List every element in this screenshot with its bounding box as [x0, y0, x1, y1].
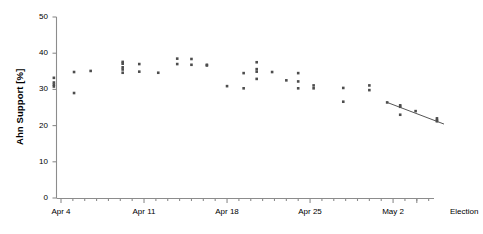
data-point [190, 63, 193, 66]
data-point [271, 71, 274, 74]
data-point [121, 62, 124, 65]
data-point [157, 71, 160, 74]
data-point [386, 101, 389, 104]
data-point [255, 78, 258, 81]
x-tick-label: Apr 11 [109, 208, 179, 216]
data-point [73, 92, 76, 95]
data-point [89, 70, 92, 73]
data-point [285, 79, 288, 82]
data-point [242, 72, 245, 75]
data-point [399, 105, 402, 108]
data-point [342, 87, 345, 90]
trend-line [387, 102, 444, 139]
y-tick-label: 0 [26, 194, 48, 202]
x-tick-label: Election [429, 208, 483, 216]
data-point [342, 100, 345, 103]
data-point [312, 84, 315, 87]
data-point [190, 58, 193, 61]
x-tick-label: May 2 [358, 208, 428, 216]
data-point [121, 71, 124, 74]
y-tick-label: 10 [26, 158, 48, 166]
data-point [312, 87, 315, 90]
data-point [255, 68, 258, 71]
x-tick-label: Apr 4 [26, 208, 96, 216]
data-point [368, 84, 371, 87]
data-point [399, 113, 402, 116]
data-point [176, 63, 179, 66]
data-point [53, 85, 56, 88]
data-point [53, 77, 56, 80]
data-point [138, 70, 141, 73]
data-point [226, 85, 229, 88]
data-point [297, 72, 300, 75]
data-point [368, 89, 371, 92]
data-point [436, 120, 439, 123]
x-tick-label: Apr 18 [192, 208, 262, 216]
data-point [255, 61, 258, 64]
data-point [297, 80, 300, 83]
data-point [176, 57, 179, 60]
data-point [138, 63, 141, 66]
data-point [242, 87, 245, 90]
data-point [206, 64, 209, 67]
y-tick-label: 30 [26, 85, 48, 93]
y-tick-label: 50 [26, 13, 48, 21]
data-point [414, 110, 417, 113]
x-tick-label: Apr 25 [275, 208, 345, 216]
y-tick-label: 40 [26, 49, 48, 57]
data-point [255, 70, 258, 73]
y-tick-label: 20 [26, 122, 48, 130]
data-point [73, 71, 76, 74]
data-point [121, 68, 124, 71]
data-point [297, 87, 300, 90]
